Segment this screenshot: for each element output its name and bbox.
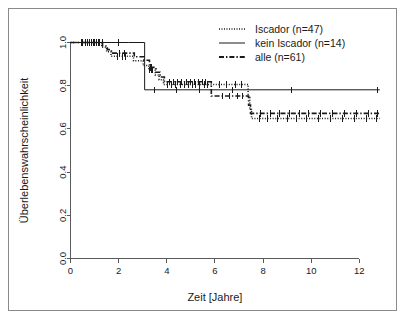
x-tick-label: 6 bbox=[212, 265, 217, 276]
x-tick-label: 10 bbox=[306, 265, 317, 276]
survival-plot: 0246810120.00.20.40.60.81.0 Iscador (n=4… bbox=[0, 0, 407, 321]
x-tick-label: 2 bbox=[116, 265, 121, 276]
x-tick-label: 4 bbox=[164, 265, 169, 276]
curve-series-2 bbox=[71, 43, 380, 114]
legend-label-1: kein Iscador (n=14) bbox=[255, 37, 345, 49]
curve-series-0 bbox=[71, 43, 380, 119]
curve-series-1 bbox=[71, 43, 380, 90]
x-tick-label: 8 bbox=[260, 265, 265, 276]
axes-group: 0246810120.00.20.40.60.81.0 bbox=[57, 36, 365, 276]
y-tick-label: 0.8 bbox=[57, 79, 68, 92]
censor-marks-group bbox=[81, 39, 377, 121]
axis-titles-group: Zeit [Jahre]Überlebenswahrscheinlichkeit bbox=[18, 78, 242, 303]
legend-label-2: alle (n=61) bbox=[255, 51, 305, 63]
y-tick-label: 0.4 bbox=[57, 165, 68, 178]
x-axis-title: Zeit [Jahre] bbox=[187, 291, 242, 303]
y-tick-label: 0.6 bbox=[57, 122, 68, 135]
legend: Iscador (n=47)kein Iscador (n=14)alle (n… bbox=[219, 23, 345, 63]
y-tick-label: 0.2 bbox=[57, 209, 68, 222]
x-tick-label: 12 bbox=[354, 265, 365, 276]
figure-root: 0246810120.00.20.40.60.81.0 Iscador (n=4… bbox=[0, 0, 407, 321]
legend-label-0: Iscador (n=47) bbox=[255, 23, 323, 35]
curves-group bbox=[71, 43, 380, 119]
x-tick-label: 0 bbox=[68, 265, 73, 276]
y-axis-title: Überlebenswahrscheinlichkeit bbox=[18, 78, 30, 224]
y-tick-label: 0.0 bbox=[57, 252, 68, 265]
y-tick-label: 1.0 bbox=[57, 36, 68, 49]
